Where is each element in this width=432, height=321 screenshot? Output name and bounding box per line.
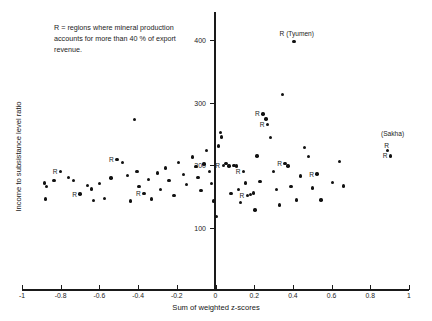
data-point <box>239 201 242 204</box>
x-tick-label: -0.2 <box>171 292 183 299</box>
data-point <box>121 161 124 164</box>
x-axis-title: Sum of weighted z-scores <box>0 303 432 312</box>
point-label-r: R <box>72 190 77 197</box>
x-tick-label: 0.2 <box>249 292 258 299</box>
data-point <box>59 170 62 173</box>
data-point <box>191 155 194 158</box>
point-label-r: R <box>383 152 388 159</box>
data-point <box>315 172 318 175</box>
data-point <box>78 192 81 195</box>
x-tick-label: -0.6 <box>94 292 106 299</box>
data-point <box>202 162 205 165</box>
data-point <box>258 180 261 183</box>
data-point <box>281 93 284 96</box>
data-point <box>103 197 106 200</box>
data-point <box>52 179 55 182</box>
data-point <box>217 144 220 147</box>
chart-annotation-note: R = regions where mineral production acc… <box>54 22 234 55</box>
data-point <box>299 174 302 177</box>
data-point <box>278 203 281 206</box>
data-point <box>150 197 153 200</box>
x-tick-mark <box>332 285 333 290</box>
data-point <box>135 170 138 173</box>
data-point <box>208 170 211 173</box>
data-point <box>319 198 322 201</box>
data-point <box>303 146 306 149</box>
data-point <box>156 171 159 174</box>
data-point <box>311 186 314 189</box>
data-point <box>92 199 95 202</box>
point-callout-label: R <box>384 141 389 148</box>
data-point <box>44 197 47 200</box>
data-point <box>227 164 230 167</box>
data-point <box>199 189 202 192</box>
y-tick-mark <box>210 103 215 104</box>
data-point <box>147 178 150 181</box>
y-tick-mark <box>210 228 215 229</box>
point-label-r: R <box>215 161 220 168</box>
point-label-r: R <box>260 121 265 128</box>
data-point <box>229 192 232 195</box>
y-tick-mark <box>210 165 215 166</box>
x-tick-mark <box>254 285 255 290</box>
point-label-r: R <box>136 190 141 197</box>
data-point <box>215 215 218 218</box>
x-tick-label: 0.6 <box>327 292 336 299</box>
x-tick-mark <box>99 285 100 290</box>
data-point <box>253 208 256 211</box>
x-tick-label: 0 <box>214 292 218 299</box>
data-point <box>164 166 167 169</box>
x-tick-label: 1 <box>407 292 411 299</box>
x-tick-mark <box>370 285 371 290</box>
data-point <box>129 199 132 202</box>
data-point <box>185 183 188 186</box>
point-label-r: R <box>109 156 114 163</box>
data-point <box>220 135 223 138</box>
x-tick-label: 0.8 <box>366 292 375 299</box>
data-point <box>67 176 70 179</box>
x-tick-mark <box>138 285 139 290</box>
data-point <box>331 181 334 184</box>
data-point <box>72 179 75 182</box>
x-tick-mark <box>61 285 62 290</box>
data-point <box>205 149 208 152</box>
data-point <box>212 199 215 202</box>
data-point <box>272 170 275 173</box>
data-point <box>159 188 162 191</box>
x-tick-label: -0.4 <box>132 292 144 299</box>
x-tick-mark <box>177 285 178 290</box>
point-label-r: R <box>255 110 260 117</box>
data-point <box>177 161 180 164</box>
x-tick-label: 0.4 <box>288 292 297 299</box>
data-point <box>389 154 392 157</box>
data-point <box>142 192 145 195</box>
data-point <box>261 112 264 115</box>
data-point <box>269 136 272 139</box>
data-point <box>196 176 199 179</box>
y-tick-label: 100 <box>194 225 206 232</box>
data-point <box>342 184 345 187</box>
point-label-r: R <box>240 191 245 198</box>
data-point <box>219 131 222 134</box>
x-tick-label: -0.8 <box>55 292 67 299</box>
x-tick-mark <box>216 285 217 290</box>
data-point <box>292 40 295 43</box>
data-point <box>172 194 175 197</box>
y-axis-title: Income to subsistance level ratio <box>14 77 23 237</box>
point-callout-label: (Sakha) <box>381 129 404 136</box>
data-point <box>307 155 310 158</box>
x-tick-label: -1 <box>19 292 25 299</box>
data-point <box>137 185 140 188</box>
data-point <box>90 187 93 190</box>
point-label-r: R <box>53 168 58 175</box>
data-point <box>244 181 247 184</box>
data-point <box>126 174 129 177</box>
data-point <box>255 154 258 157</box>
x-tick-mark <box>22 285 23 290</box>
point-label-r: R <box>277 159 282 166</box>
data-point <box>338 160 341 163</box>
x-tick-mark <box>293 285 294 290</box>
data-point <box>289 185 292 188</box>
data-point <box>98 182 101 185</box>
data-point <box>275 188 278 191</box>
